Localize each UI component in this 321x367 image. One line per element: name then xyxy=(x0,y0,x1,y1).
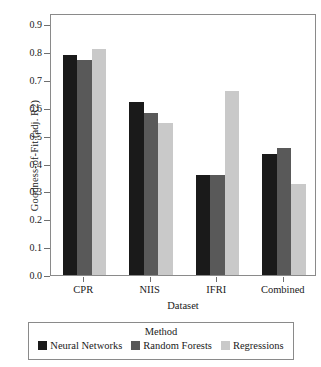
y-tick-label: 0.7 xyxy=(30,76,43,86)
legend-label: Neural Networks xyxy=(50,340,122,351)
bar xyxy=(210,175,225,275)
legend-swatch xyxy=(38,341,47,350)
y-tick-label: 0.9 xyxy=(30,20,43,30)
legend-swatch xyxy=(221,341,230,350)
x-tick-label: CPR xyxy=(73,284,93,295)
legend-swatch xyxy=(131,341,140,350)
legend-item: Neural Networks xyxy=(38,340,122,351)
plot-panel xyxy=(50,14,316,276)
legend-items: Neural NetworksRandom ForestsRegressions xyxy=(29,340,293,351)
bar xyxy=(277,148,292,275)
x-tick-mark xyxy=(150,277,151,282)
bar xyxy=(225,91,240,275)
legend-label: Regressions xyxy=(233,340,284,351)
bar xyxy=(262,154,277,275)
y-tick-mark xyxy=(44,25,50,26)
y-tick-mark xyxy=(44,220,50,221)
x-axis-title: Dataset xyxy=(50,300,316,311)
bar xyxy=(158,123,173,275)
y-axis-title: Goodness-of-Fit (adj. R2) xyxy=(29,36,40,276)
bar xyxy=(92,49,107,275)
y-tick-label: 0.5 xyxy=(30,132,43,142)
y-tick-mark xyxy=(44,109,50,110)
y-tick-mark xyxy=(44,192,50,193)
y-tick-mark xyxy=(44,248,50,249)
bar xyxy=(144,113,159,275)
x-tick-mark xyxy=(283,277,284,282)
bar xyxy=(63,55,78,275)
y-tick-label: 0.3 xyxy=(30,187,43,197)
x-tick-label: Combined xyxy=(261,284,305,295)
y-tick-mark xyxy=(44,137,50,138)
y-tick-label: 0.4 xyxy=(30,160,43,170)
y-tick-label: 0.2 xyxy=(30,215,43,225)
chart-figure: Goodness-of-Fit (adj. R2) 0.00.10.20.30.… xyxy=(0,0,321,367)
bar xyxy=(291,184,306,275)
x-tick-mark xyxy=(216,277,217,282)
legend: Method Neural NetworksRandom ForestsRegr… xyxy=(28,322,294,360)
plot-area xyxy=(51,15,315,275)
x-tick-label: NIIS xyxy=(140,284,160,295)
y-tick-label: 0.1 xyxy=(30,243,43,253)
bar xyxy=(196,175,211,275)
x-tick-label: IFRI xyxy=(206,284,226,295)
y-tick-label: 0.0 xyxy=(30,271,43,281)
legend-title: Method xyxy=(29,326,293,337)
x-tick-mark xyxy=(83,277,84,282)
y-tick-mark xyxy=(44,81,50,82)
bar xyxy=(77,60,92,275)
y-tick-mark xyxy=(44,276,50,277)
bar xyxy=(129,102,144,275)
y-tick-label: 0.6 xyxy=(30,104,43,114)
y-tick-mark xyxy=(44,165,50,166)
y-tick-mark xyxy=(44,53,50,54)
legend-item: Random Forests xyxy=(131,340,212,351)
legend-label: Random Forests xyxy=(143,340,212,351)
legend-item: Regressions xyxy=(221,340,284,351)
y-tick-label: 0.8 xyxy=(30,48,43,58)
